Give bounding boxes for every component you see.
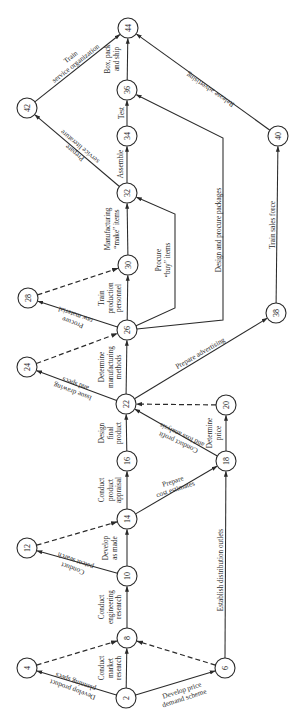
event-node: 34 (117, 126, 137, 146)
event-node-number: 44 (124, 24, 133, 32)
activity-label: Preparecost estimates (153, 472, 196, 500)
activity-label: Prepare advertising (174, 336, 227, 371)
activity-label: Conductproductappraisal (98, 477, 122, 503)
event-node-number: 22 (122, 400, 131, 408)
event-node: 20 (216, 395, 236, 415)
activity-arrow (135, 318, 268, 398)
event-node-number: 38 (272, 309, 281, 317)
activity-label: Conductengineeringresearch (98, 590, 122, 624)
event-node: 36 (117, 80, 137, 100)
activity-arrow (136, 95, 223, 329)
activity-label: Release advertising (184, 70, 235, 108)
event-node: 10 (117, 566, 137, 586)
activity-label: Conduct profitand loss analysis (155, 421, 206, 456)
event-node: 22 (116, 394, 136, 414)
activity-label: Trainservice organization (45, 36, 101, 85)
event-node-number: 20 (222, 401, 231, 409)
event-node-number: 26 (123, 326, 132, 334)
edges-layer (35, 34, 278, 695)
edge-labels-layer: Develop productplanning specsConductmark… (45, 36, 276, 709)
event-node: 26 (117, 320, 137, 340)
activity-label: Procure“buy” items (155, 243, 171, 278)
event-node: 44 (118, 18, 138, 38)
event-node: 18 (216, 451, 236, 471)
activity-label: Issue drawingand specs (52, 373, 96, 402)
activity-label: Assemble (117, 150, 125, 178)
event-node-number: 34 (123, 132, 132, 140)
event-node-number: 4 (23, 666, 32, 670)
event-node: 4 (17, 658, 37, 678)
event-node-number: 40 (274, 132, 283, 140)
activity-arrow (127, 276, 128, 321)
event-node: 12 (17, 538, 37, 558)
event-node-number: 42 (23, 104, 32, 112)
activity-label: Conductpatent search (53, 550, 94, 578)
nodes-layer: 2468101214161820222426283032343638404244 (17, 18, 288, 708)
event-node-number: 10 (123, 572, 132, 580)
event-node: 2 (116, 688, 136, 708)
activity-label: Manufacturing“make” items (104, 207, 120, 250)
activity-label: Develop productplanning specs (49, 670, 100, 702)
event-node-number: 32 (123, 189, 132, 197)
dummy-activity-arrow (137, 404, 217, 405)
activity-label: Design and procure packages (215, 188, 223, 273)
event-node: 40 (268, 126, 288, 146)
activity-label: Test (118, 107, 126, 119)
activity-label: Box, packand ship (104, 44, 120, 74)
dummy-activity-arrow (137, 641, 215, 665)
activity-label: Develop pricedemand scheme (159, 680, 208, 710)
activity-arrow (126, 649, 127, 689)
event-node: 14 (117, 509, 137, 529)
event-node: 6 (215, 658, 235, 678)
event-node-number: 2 (122, 696, 131, 700)
activity-label: Establish distribution outlets (217, 529, 225, 611)
activity-label: Train sales force (269, 201, 277, 249)
event-node-number: 8 (123, 636, 132, 640)
event-node-number: 18 (222, 457, 231, 465)
activity-label: Determineprice (206, 418, 222, 448)
event-node-number: 28 (24, 294, 33, 302)
event-node: 30 (118, 255, 138, 275)
event-node: 42 (17, 98, 37, 118)
activity-arrow (126, 341, 127, 395)
event-node: 24 (17, 357, 37, 377)
event-node: 32 (117, 183, 137, 203)
activity-label: Procureraw material (54, 305, 93, 333)
activity-arrow (225, 472, 226, 659)
event-node-number: 6 (221, 666, 230, 670)
event-node: 28 (18, 288, 38, 308)
activity-label: Developas made (102, 535, 118, 560)
event-node: 38 (266, 303, 286, 323)
event-node: 8 (117, 628, 137, 648)
event-node-number: 12 (23, 544, 32, 552)
activity-arrow (126, 415, 127, 452)
event-node-number: 30 (124, 261, 133, 269)
activity-label: Designfinalproduct (98, 422, 122, 444)
activity-label: Trainproductionpersonnel (98, 282, 122, 314)
event-node: 16 (117, 451, 137, 471)
activity-arrow (127, 39, 128, 81)
activity-arrow (127, 204, 128, 256)
event-node-number: 16 (123, 457, 132, 465)
event-node-number: 14 (123, 515, 132, 523)
event-node-number: 24 (23, 363, 32, 371)
event-node-number: 36 (123, 86, 132, 94)
pert-network-diagram: Develop productplanning specsConductmark… (0, 0, 302, 721)
activity-label: Conductmarketresearch (98, 656, 122, 681)
activity-label: Determinemanufacturingmethods (98, 346, 122, 388)
